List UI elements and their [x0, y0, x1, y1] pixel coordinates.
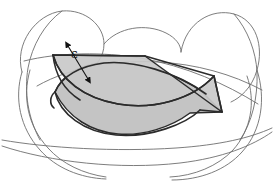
wireframe-left-join-curve: [27, 11, 63, 140]
wireframe-lower-curve-a: [2, 132, 272, 166]
geometric-figure: [0, 0, 275, 182]
epsilon-label: ε: [71, 47, 78, 60]
wireframe-right-join-curve: [234, 14, 257, 140]
wireframe-inner-top-curve: [104, 28, 181, 52]
upper-surface-top-left-edge: [53, 55, 145, 56]
figure-canvas: ε: [0, 0, 275, 182]
lower-surface-left-lip: [51, 92, 55, 108]
